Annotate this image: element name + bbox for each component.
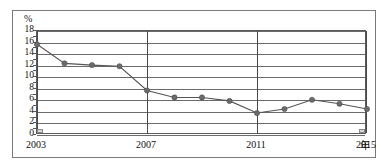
y-tick-mark [33, 134, 36, 135]
data-point [364, 106, 369, 111]
x-tick-label: 2007 [126, 139, 166, 150]
data-point [254, 110, 259, 115]
y-tick-label: 16 [14, 37, 34, 47]
y-tick-label: 12 [14, 60, 34, 70]
data-point [62, 61, 67, 66]
gridline [37, 135, 365, 136]
y-axis-unit-label: % [24, 14, 32, 24]
y-tick-label: 18 [14, 25, 34, 35]
scroll-nub-left [37, 129, 43, 133]
line-chart-figure: % 181614121086420 2003200720112015 年 [0, 0, 389, 168]
x-axis-tick-labels: 2003200720112015 [36, 139, 366, 155]
x-axis-unit-label: 年 [360, 140, 370, 151]
data-point [199, 95, 204, 100]
x-tick-label: 2003 [16, 139, 56, 150]
y-tick-label: 2 [14, 117, 34, 127]
y-tick-label: 10 [14, 71, 34, 81]
plot-area [36, 30, 366, 134]
data-point [172, 95, 177, 100]
data-point [144, 88, 149, 93]
y-tick-label: 0 [14, 129, 34, 139]
data-point [89, 62, 94, 67]
y-tick-label: 8 [14, 83, 34, 93]
data-series-line [37, 31, 367, 135]
y-tick-label: 6 [14, 94, 34, 104]
data-point [117, 64, 122, 69]
series-polyline [37, 44, 367, 113]
data-point [34, 42, 39, 47]
data-point [282, 106, 287, 111]
data-point [227, 98, 232, 103]
series-data-points [34, 42, 369, 116]
y-axis-tick-labels: 181614121086420 [12, 30, 34, 134]
data-point [309, 97, 314, 102]
scroll-nub-right [359, 129, 365, 133]
y-tick-label: 14 [14, 48, 34, 58]
y-tick-label: 4 [14, 106, 34, 116]
data-point [337, 101, 342, 106]
x-tick-label: 2011 [236, 139, 276, 150]
